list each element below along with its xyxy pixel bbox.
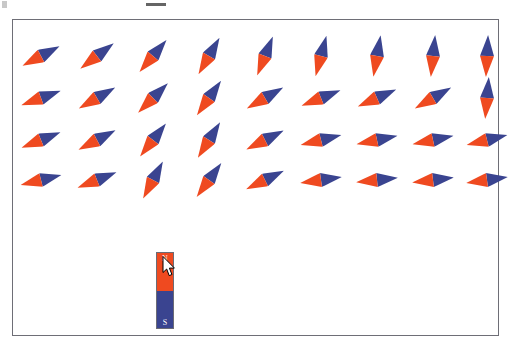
cursor-layer [13, 20, 498, 335]
mouse-pointer-icon [162, 256, 176, 277]
scan-artifact-top-left [2, 1, 7, 8]
scan-artifact-top-dash [146, 3, 166, 6]
magnetic-field-canvas[interactable]: N S [12, 19, 499, 336]
